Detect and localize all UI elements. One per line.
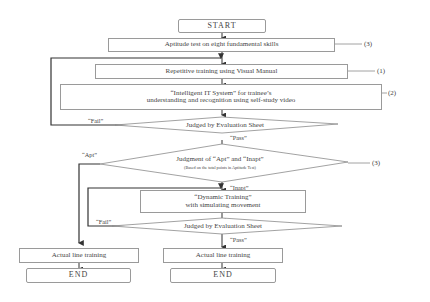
dynamic-line2: with simulating movement — [185, 202, 260, 209]
fail-label-2: “Fail” — [96, 218, 111, 225]
ref-label-itsystem: (2) — [388, 89, 396, 97]
ref-label-aptitude: (3) — [364, 40, 372, 48]
pass-label-1: “Pass” — [230, 134, 247, 141]
judged-1-label: Judged by Evaluation Sheet — [140, 121, 310, 129]
decision-judgment-apt-inapt — [100, 144, 348, 182]
start-terminal: START — [178, 19, 266, 33]
actual-line-training-right: Actual line training — [163, 248, 283, 263]
judgment-line2: (Based on the total points in Aptitude T… — [120, 165, 320, 170]
ref-label-repetitive: (1) — [377, 67, 385, 75]
fail-label-1: “Fail” — [88, 117, 103, 124]
judgment-line1: Judgment of “Apt” and “Inapt” — [120, 155, 320, 163]
dynamic-training-box: “Dynamic Training” with simulating movem… — [140, 190, 306, 213]
actual-line-training-left: Actual line training — [19, 248, 139, 263]
ref-label-judgment: (3) — [372, 159, 380, 167]
apt-label: “Apt” — [82, 151, 97, 158]
apt-path — [79, 164, 100, 243]
end-terminal-left: END — [26, 268, 131, 283]
judged-2-label: Judged by Evaluation Sheet — [138, 222, 308, 230]
aptitude-test-box: Aptitude test on eight fundamental skill… — [108, 38, 335, 52]
pass-label-2: “Pass” — [230, 236, 247, 243]
it-system-line2: understanding and recognition using self… — [147, 97, 296, 104]
repetitive-training-box: Repetitive training using Visual Manual — [95, 64, 348, 79]
end-terminal-right: END — [170, 268, 276, 283]
it-system-box: “Intelligent IT System” for trainee’s un… — [60, 84, 382, 110]
